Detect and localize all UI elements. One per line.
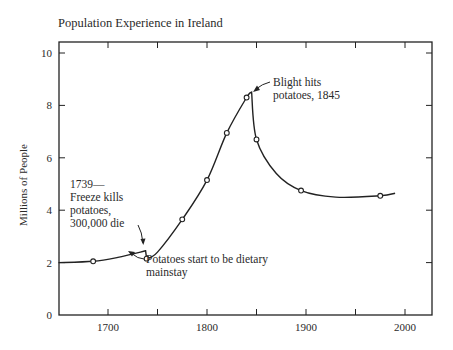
data-point-marker xyxy=(378,193,383,198)
data-markers xyxy=(91,95,383,264)
y-tick-label: 8 xyxy=(47,99,53,111)
data-point-marker xyxy=(244,95,249,100)
y-tick-label: 10 xyxy=(41,47,53,59)
x-tick-label: 1800 xyxy=(196,321,219,333)
svg-text:1739—: 1739— xyxy=(70,178,105,190)
x-tick-label: 1900 xyxy=(295,321,318,333)
annotation-dietary-mainstay: Potatoes start to be dietary mainstay xyxy=(128,251,268,279)
annotation-line: potatoes, xyxy=(70,204,111,217)
chart-title: Population Experience in Ireland xyxy=(58,16,224,30)
svg-text:300,000 die: 300,000 die xyxy=(70,217,124,230)
data-point-marker xyxy=(299,188,304,193)
svg-text:Blight hits: Blight hits xyxy=(273,76,322,89)
svg-text:Potatoes start to be dietary: Potatoes start to be dietary xyxy=(146,253,268,266)
y-tick-label: 0 xyxy=(47,309,53,321)
y-tick-label: 2 xyxy=(47,257,53,269)
svg-text:potatoes, 1845: potatoes, 1845 xyxy=(273,89,340,102)
y-tick-label: 4 xyxy=(47,204,53,216)
annotation-line: Potatoes start to be dietary xyxy=(146,253,268,266)
annotation-line: 300,000 die xyxy=(70,217,124,230)
data-point-marker xyxy=(224,131,229,136)
annotation-line: 1739— xyxy=(70,178,105,190)
data-point-marker xyxy=(205,178,210,183)
annotation-blight-1845: Blight hits potatoes, 1845 xyxy=(253,76,340,102)
svg-text:mainstay: mainstay xyxy=(146,266,188,279)
annotation-line: Freeze kills xyxy=(70,191,124,203)
data-point-marker xyxy=(180,217,185,222)
x-axis: 1700180019002000 xyxy=(97,42,417,333)
svg-text:Freeze kills: Freeze kills xyxy=(70,191,124,203)
annotation-line: mainstay xyxy=(146,266,188,279)
annotation-line: potatoes, 1845 xyxy=(273,89,340,102)
population-chart: Population Experience in Ireland 1700180… xyxy=(0,0,453,350)
data-point-marker xyxy=(91,259,96,264)
annotation-freeze-1739: 1739— Freeze kills potatoes, 300,000 die xyxy=(70,178,146,245)
population-line xyxy=(59,92,396,262)
y-tick-label: 6 xyxy=(47,152,53,164)
y-axis-label: Millions of People xyxy=(17,144,29,226)
annotation-line: Blight hits xyxy=(273,76,322,89)
x-tick-label: 2000 xyxy=(394,321,417,333)
x-tick-label: 1700 xyxy=(97,321,120,333)
plot-frame xyxy=(59,42,432,315)
data-point-marker xyxy=(254,137,259,142)
svg-text:potatoes,: potatoes, xyxy=(70,204,111,217)
